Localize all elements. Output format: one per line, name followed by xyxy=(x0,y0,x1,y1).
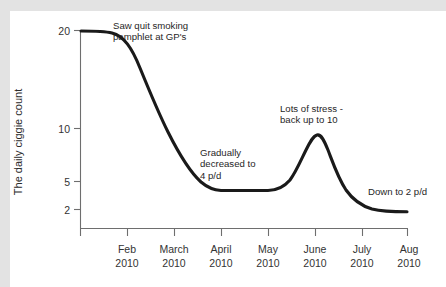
x-tick-label-march-year: 2010 xyxy=(162,257,185,269)
x-tick-label-may-month: May xyxy=(258,243,278,255)
scanned-page-frame: The daily ciggie count 20 10 5 2 Feb Mar… xyxy=(0,0,446,287)
end-annotation-line-1: Down to 2 p/d xyxy=(368,186,427,197)
y-tick-label-10: 10 xyxy=(52,123,70,135)
peak-annotation-line-2: back up to 10 xyxy=(280,114,343,125)
y-tick-label-2: 2 xyxy=(52,204,70,216)
x-tick-label-april-month: April xyxy=(210,243,231,255)
x-tick-label-aug-year: 2010 xyxy=(397,257,420,269)
start-annotation: Saw quit smoking pamphlet at GP's xyxy=(113,20,188,43)
line-chart: The daily ciggie count 20 10 5 2 Feb Mar… xyxy=(0,0,446,287)
x-tick-label-july-year: 2010 xyxy=(350,257,373,269)
x-tick-label-aug-month: Aug xyxy=(400,243,419,255)
plateau-annotation-line-3: 4 p/d xyxy=(200,170,255,181)
x-tick-label-feb-month: Feb xyxy=(118,243,136,255)
start-annotation-line-1: Saw quit smoking xyxy=(113,20,188,31)
x-tick-label-june-month: June xyxy=(304,243,327,255)
x-tick-label-feb-year: 2010 xyxy=(115,257,138,269)
start-annotation-line-2: pamphlet at GP's xyxy=(113,31,188,42)
plateau-annotation-line-2: decreased to xyxy=(200,158,255,169)
x-tick-label-june-year: 2010 xyxy=(303,257,326,269)
y-tick-label-5: 5 xyxy=(52,176,70,188)
x-tick-label-july-month: July xyxy=(353,243,372,255)
plateau-annotation-line-1: Gradually xyxy=(200,147,255,158)
y-tick-label-20: 20 xyxy=(52,25,70,37)
peak-annotation-line-1: Lots of stress - xyxy=(280,103,343,114)
x-tick-label-march-month: March xyxy=(159,243,188,255)
x-tick-label-may-year: 2010 xyxy=(256,257,279,269)
plateau-annotation: Gradually decreased to 4 p/d xyxy=(200,147,255,181)
y-axis-title: The daily ciggie count xyxy=(12,89,24,195)
end-annotation: Down to 2 p/d xyxy=(368,186,427,197)
peak-annotation: Lots of stress - back up to 10 xyxy=(280,103,343,126)
ciggie-count-curve xyxy=(81,31,407,212)
x-tick-label-april-year: 2010 xyxy=(209,257,232,269)
